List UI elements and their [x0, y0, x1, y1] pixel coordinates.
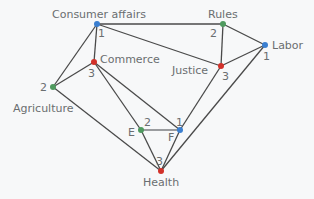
- edge-agriculture-health: [53, 87, 161, 171]
- number-health: 3: [156, 155, 163, 168]
- label-agriculture: Agriculture: [13, 102, 74, 115]
- number-f: 1: [176, 116, 183, 129]
- edge-justice-labor: [221, 45, 265, 66]
- edge-rules-justice: [221, 24, 223, 66]
- number-e: 2: [144, 116, 151, 129]
- number-agriculture: 2: [40, 81, 47, 94]
- label-justice: Justice: [171, 64, 208, 77]
- edge-commerce-f: [94, 62, 180, 130]
- node-health: [158, 168, 164, 174]
- label-e: E: [128, 126, 135, 139]
- edge-consumer-commerce: [94, 24, 97, 62]
- node-labor: [262, 42, 268, 48]
- node-agriculture: [50, 84, 56, 90]
- node-rules: [220, 21, 226, 27]
- edge-commerce-e: [94, 62, 141, 130]
- number-rules: 2: [210, 27, 217, 40]
- committee-graph: Consumer affairs Rules Labor Commerce Ju…: [0, 0, 314, 199]
- number-labor: 1: [263, 50, 270, 63]
- number-consumer-affairs: 1: [98, 27, 105, 40]
- node-commerce: [91, 59, 97, 65]
- edge-rules-labor: [223, 24, 265, 45]
- label-f: F: [168, 131, 174, 144]
- color-numbers: 1 2 1 3 3 2 2 1 3: [40, 27, 270, 168]
- label-commerce: Commerce: [100, 53, 160, 66]
- label-consumer-affairs: Consumer affairs: [52, 8, 146, 21]
- edges: [53, 24, 265, 171]
- label-labor: Labor: [272, 39, 304, 52]
- number-justice: 3: [222, 70, 229, 83]
- number-commerce: 3: [88, 67, 95, 80]
- node-justice: [218, 63, 224, 69]
- label-rules: Rules: [208, 8, 238, 21]
- label-health: Health: [143, 176, 179, 189]
